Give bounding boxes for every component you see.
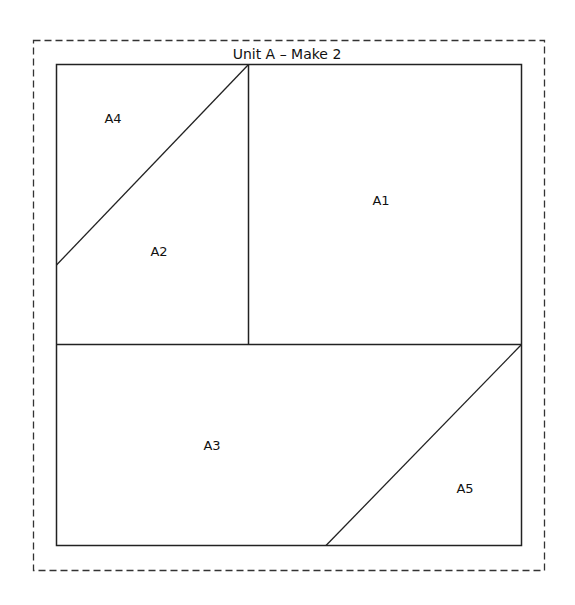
piece-label-a3: A3: [203, 438, 220, 453]
piece-label-a2: A2: [150, 244, 167, 259]
unit-title: Unit A – Make 2: [233, 46, 342, 62]
block-outline: [57, 65, 522, 546]
quilt-unit-diagram: Unit A – Make 2 A4 A2 A1 A3 A5: [0, 0, 575, 605]
piece-label-a4: A4: [104, 111, 121, 126]
seam-line-diagonal-a3-a5: [326, 345, 522, 546]
piece-label-a1: A1: [372, 193, 389, 208]
piece-label-a5: A5: [456, 481, 473, 496]
seam-line-diagonal-a4-a2: [57, 65, 249, 266]
